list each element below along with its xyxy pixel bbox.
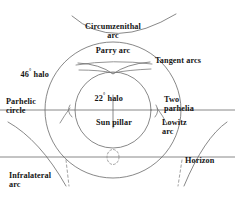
label-22-halo-value: 22 bbox=[95, 93, 103, 102]
label-horizon: Horizon bbox=[185, 157, 235, 166]
label-parry-arc: Parry arc bbox=[76, 47, 150, 56]
label-sun-pillar: Sun pillar bbox=[76, 119, 152, 128]
label-two-parhelia: Twoparhelia bbox=[164, 96, 230, 113]
label-46-halo: 46° halo bbox=[12, 58, 72, 88]
label-parhelic-circle: Parheliccircle bbox=[6, 98, 68, 115]
circumzenithal-arc-line1: Circumzenithalarc bbox=[57, 23, 169, 40]
label-lowitz-arc: Lowitzarc bbox=[162, 119, 222, 136]
label-tangent-arcs: Tangent arcs bbox=[155, 57, 235, 66]
halo-diagram-figure: Circumzenithalarc Parry arc Tangent arcs… bbox=[0, 0, 235, 205]
label-22-halo: 22° halo bbox=[86, 82, 146, 112]
infralateral-arc-right-dashed bbox=[178, 160, 182, 186]
right-parhelion bbox=[155, 105, 158, 117]
label-46-halo-suffix: halo bbox=[31, 69, 49, 78]
left-parhelion bbox=[68, 105, 72, 117]
label-46-halo-value: 46 bbox=[21, 69, 29, 78]
lower-tangent-arc bbox=[79, 69, 151, 73]
label-22-halo-suffix: halo bbox=[105, 93, 123, 102]
label-infralateral-arc: Infralateralarc bbox=[9, 172, 87, 189]
